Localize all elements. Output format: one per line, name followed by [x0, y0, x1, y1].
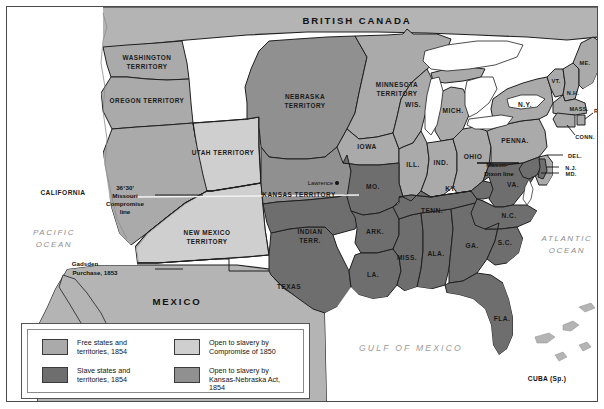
- label-new-mexico-territory-line2: TERRITORY: [186, 238, 227, 245]
- label-cuba: CUBA (Sp.): [528, 375, 566, 383]
- label-kansas-territory: KANSAS TERRITORY: [262, 191, 336, 198]
- label-michigan: MICH.: [443, 107, 464, 114]
- label-georgia: GA.: [465, 242, 478, 249]
- label-indian-territory-line2: TERR.: [299, 237, 321, 244]
- label-kentucky: KY.: [445, 185, 457, 192]
- legend-label-open-1850: Open to slavery byCompromise of 1850: [209, 339, 276, 356]
- label-washington-territory-line1: WASHINGTON: [123, 54, 172, 61]
- legend-label-free-states: Free states andterritories, 1854: [77, 339, 127, 356]
- label-mason-dixon-line2: Dixon line: [484, 170, 514, 177]
- label-louisiana: LA.: [367, 271, 379, 278]
- label-atlantic-ocean-line2: OCEAN: [549, 246, 585, 255]
- label-arkansas: ARK.: [366, 228, 384, 235]
- label-maine: ME.: [580, 60, 591, 66]
- map-frame: BRITISH CANADA MEXICO PACIFIC OCEAN ATLA…: [6, 6, 598, 402]
- label-new-hampshire: N.H.: [567, 90, 580, 96]
- label-utah-territory: UTAH TERRITORY: [192, 149, 255, 156]
- map-screenshot: BRITISH CANADA MEXICO PACIFIC OCEAN ATLA…: [0, 0, 604, 409]
- label-city-lawrence: Lawrence: [308, 180, 333, 186]
- legend-swatch-slave-states: [42, 367, 68, 383]
- label-washington-territory-line2: TERRITORY: [126, 63, 167, 70]
- legend-item-slave-states: Slave states andterritories, 1854: [42, 367, 152, 384]
- label-massachusetts: MASS.: [569, 106, 588, 112]
- legend-free-line2: territories, 1854: [77, 347, 127, 356]
- label-maryland: MD.: [565, 171, 576, 177]
- label-alabama: ALA.: [427, 250, 444, 257]
- label-wisconsin: WIS.: [405, 101, 421, 108]
- label-mississippi: MISS.: [397, 254, 417, 261]
- label-texas: TEXAS: [277, 283, 301, 290]
- map-legend: Free states andterritories, 1854 Slave s…: [21, 323, 310, 399]
- label-missouri-compromise-line1: 36°30': [116, 184, 134, 191]
- label-tennessee: TENN.: [421, 207, 443, 214]
- label-vermont: VT.: [552, 78, 561, 84]
- label-illinois: ILL.: [406, 161, 420, 168]
- label-minnesota-territory-line1: MINNESOTA: [376, 81, 418, 88]
- legend-swatch-free-states: [42, 339, 68, 355]
- label-delaware: DEL.: [568, 153, 582, 159]
- label-pacific-ocean-line2: OCEAN: [36, 240, 72, 249]
- legend-label-open-kansas-nebraska: Open to slavery byKansas-Nebraska Act,18…: [209, 367, 280, 393]
- label-atlantic-ocean-line1: ATLANTIC: [541, 234, 593, 243]
- region-connecticut: [553, 113, 575, 127]
- label-gulf-of-mexico: GULF OF MEXICO: [359, 343, 463, 353]
- label-oregon-territory: OREGON TERRITORY: [110, 97, 185, 104]
- label-mason-dixon-line1: Mason-: [486, 161, 508, 168]
- label-pacific-ocean-line1: PACIFIC: [33, 228, 75, 237]
- label-nebraska-territory-line1: NEBRASKA: [285, 93, 325, 100]
- label-florida: FLA.: [494, 315, 510, 322]
- legend-open1850-line2: Compromise of 1850: [209, 347, 276, 356]
- label-gadsden-line2: Purchase, 1853: [72, 269, 118, 276]
- label-missouri: MO.: [366, 183, 380, 190]
- label-gadsden-line1: Gadsden: [72, 260, 99, 267]
- label-indiana: IND.: [434, 159, 449, 166]
- label-indian-territory-line1: INDIAN: [297, 228, 322, 235]
- label-missouri-compromise-line4: line: [120, 208, 131, 215]
- city-marker-lawrence: [335, 181, 339, 185]
- label-missouri-compromise-line3: Compromise: [106, 200, 144, 207]
- label-california: CALIFORNIA: [40, 189, 85, 196]
- label-mexico: MEXICO: [152, 296, 201, 307]
- legend-label-slave-states: Slave states andterritories, 1854: [77, 367, 130, 384]
- label-iowa: IOWA: [357, 143, 376, 150]
- legend-item-open-1850: Open to slavery byCompromise of 1850: [174, 339, 304, 356]
- label-rhode-island: R.I.: [594, 108, 598, 114]
- legend-openkn-line3: 1854: [209, 383, 225, 392]
- legend-slave-line2: territories, 1854: [77, 375, 127, 384]
- label-pennsylvania: PENNA.: [501, 137, 529, 144]
- legend-item-free-states: Free states andterritories, 1854: [42, 339, 152, 356]
- label-new-york: N.Y.: [518, 101, 532, 108]
- label-new-mexico-territory-line1: NEW MEXICO: [184, 229, 231, 236]
- legend-swatch-open-kansas-nebraska: [174, 367, 200, 383]
- label-british-canada: BRITISH CANADA: [302, 15, 411, 26]
- label-connecticut: CONN.: [575, 134, 595, 140]
- label-south-carolina: S.C.: [498, 239, 513, 246]
- label-missouri-compromise-line2: Missouri: [112, 192, 138, 199]
- label-nebraska-territory-line2: TERRITORY: [284, 102, 325, 109]
- legend-item-open-kansas-nebraska: Open to slavery byKansas-Nebraska Act,18…: [174, 367, 304, 393]
- region-rhode-island: [577, 115, 585, 125]
- label-minnesota-territory-line2: TERRITORY: [376, 90, 417, 97]
- label-north-carolina: N.C.: [502, 212, 517, 219]
- label-ohio: OHIO: [464, 153, 483, 160]
- label-virginia: VA.: [507, 181, 519, 188]
- legend-swatch-open-1850: [174, 339, 200, 355]
